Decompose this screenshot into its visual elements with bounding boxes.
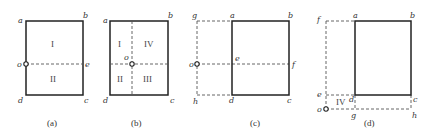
region-III: III (143, 74, 152, 84)
origin-point-icon (24, 62, 28, 66)
label-a: a (103, 16, 108, 25)
label-c: c (413, 95, 418, 104)
label-f: f (291, 60, 297, 69)
rectangle-abcd (355, 21, 411, 95)
label-o: o (189, 60, 194, 69)
region-II: II (117, 74, 123, 84)
origin-point-icon (195, 62, 199, 66)
label-o: o (317, 105, 322, 114)
label-o: o (124, 53, 129, 62)
label-d: d (349, 95, 354, 104)
region-IV: IV (336, 97, 346, 107)
label-o: o (17, 60, 22, 69)
panel-b: a b c d o I IV II III (b) (103, 11, 175, 128)
label-a: a (18, 16, 23, 25)
label-b: b (288, 11, 293, 20)
label-d: d (103, 96, 108, 105)
label-c: c (84, 96, 89, 105)
panel-c: g a b o e f h d c (c) (189, 11, 297, 128)
label-b: b (168, 11, 173, 20)
label-h: h (193, 97, 198, 106)
label-g: g (351, 111, 356, 120)
label-e: e (235, 54, 240, 63)
panel-d: f a b e d c o g h IV (d) (316, 11, 418, 128)
origin-point-icon (130, 62, 134, 66)
caption-b: (b) (131, 118, 142, 128)
region-II: II (50, 74, 56, 84)
label-b: b (410, 11, 415, 20)
label-e: e (85, 60, 90, 69)
region-IV: IV (144, 39, 154, 49)
rectangle-abcd (232, 21, 289, 95)
origin-point-icon (324, 107, 328, 111)
label-a: a (353, 11, 358, 20)
label-c: c (170, 96, 175, 105)
label-e: e (317, 90, 322, 99)
region-I: I (118, 39, 121, 49)
label-a: a (230, 11, 235, 20)
caption-a: (a) (47, 118, 57, 128)
caption-c: (c) (250, 118, 260, 128)
caption-d: (d) (364, 118, 375, 128)
label-d: d (229, 96, 234, 105)
figure: a b c d o e I II (a) a b c d o I IV II I… (0, 0, 435, 133)
label-b: b (83, 11, 88, 20)
label-c: c (287, 96, 292, 105)
label-g: g (192, 11, 197, 20)
region-I: I (51, 39, 54, 49)
panel-a: a b c d o e I II (a) (17, 11, 90, 128)
label-h: h (412, 111, 417, 120)
label-d: d (18, 96, 23, 105)
label-f: f (316, 15, 322, 24)
